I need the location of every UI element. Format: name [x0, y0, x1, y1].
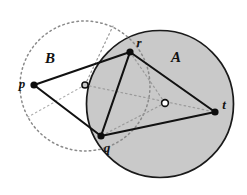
- center-marker-b: [82, 82, 88, 88]
- point-p: [30, 81, 37, 88]
- label-point-q: q: [104, 140, 111, 155]
- label-point-p: p: [18, 76, 26, 91]
- label-region-a: A: [170, 49, 181, 65]
- figure-canvas: A B p r q t: [0, 0, 247, 195]
- circle-a-disk: [87, 31, 234, 178]
- point-r: [126, 48, 133, 55]
- geometry-figure: A B p r q t: [0, 0, 247, 195]
- point-q: [97, 132, 104, 139]
- label-region-b: B: [44, 50, 55, 66]
- point-t: [211, 108, 218, 115]
- center-marker-a: [162, 100, 169, 107]
- label-point-t: t: [222, 97, 226, 112]
